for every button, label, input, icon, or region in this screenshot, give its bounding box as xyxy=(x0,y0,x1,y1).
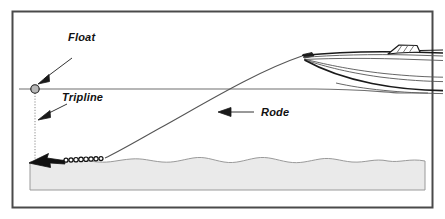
tripline-label: Tripline xyxy=(62,91,103,103)
float-circle xyxy=(31,85,39,93)
float-buoy xyxy=(31,85,39,93)
chain-link xyxy=(84,157,88,161)
chain-link xyxy=(79,157,83,161)
anchoring-diagram: Float Tripline Rode xyxy=(0,0,445,219)
chain-link xyxy=(74,158,78,162)
float-label: Float xyxy=(68,31,96,43)
boat-cowl-trim xyxy=(420,50,443,51)
chain-link xyxy=(89,157,93,161)
diagram-canvas: Float Tripline Rode xyxy=(0,0,445,219)
chain-link xyxy=(99,157,103,161)
chain-link xyxy=(69,158,73,162)
seabed-fill xyxy=(30,157,425,190)
seabed xyxy=(30,157,425,190)
chain-link xyxy=(94,157,98,161)
rode-label: Rode xyxy=(261,106,289,118)
